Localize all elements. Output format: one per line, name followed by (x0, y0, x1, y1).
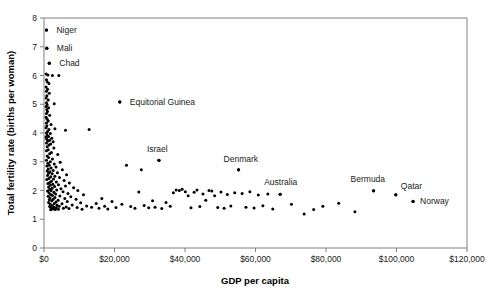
data-point (48, 152, 51, 155)
data-point (53, 102, 56, 105)
data-point (257, 194, 260, 197)
x-tick-label: $40,000 (170, 254, 201, 264)
data-point (85, 205, 88, 208)
data-point (62, 190, 65, 193)
data-point (290, 203, 293, 206)
x-axis-ticks: $0$20,000$40,000$60,000$80,000$100,000$1… (39, 248, 485, 264)
point-label-israel: Israel (147, 144, 168, 154)
data-point (195, 188, 198, 191)
data-point (52, 169, 55, 172)
data-point (133, 207, 136, 210)
annotated-data-point (372, 189, 375, 192)
data-point (114, 206, 117, 209)
data-point (57, 183, 60, 186)
point-label-niger: Niger (56, 25, 76, 35)
data-point (175, 188, 178, 191)
data-point (103, 205, 106, 208)
data-point (66, 192, 69, 195)
data-point (55, 180, 58, 183)
annotated-data-point (411, 200, 414, 203)
y-tick-label: 7 (32, 42, 37, 52)
data-point (216, 206, 219, 209)
data-point (75, 198, 78, 201)
data-point (45, 165, 48, 168)
y-tick-label: 3 (32, 157, 37, 167)
point-label-australia: Australia (264, 177, 297, 187)
data-point (52, 140, 55, 143)
data-point (62, 207, 65, 210)
data-point (312, 208, 315, 211)
x-tick-label: $20,000 (99, 254, 130, 264)
data-point (201, 192, 204, 195)
data-point (81, 208, 84, 211)
data-point (65, 205, 68, 208)
data-point (50, 123, 53, 126)
data-point (57, 74, 60, 77)
data-point (233, 191, 236, 194)
data-point (337, 202, 340, 205)
data-point (125, 164, 128, 167)
plot-frame (44, 18, 467, 248)
data-point (82, 193, 85, 196)
data-point (53, 175, 56, 178)
data-point (90, 206, 93, 209)
data-point (79, 201, 82, 204)
data-points (45, 29, 415, 216)
data-point (49, 208, 52, 211)
data-point (207, 189, 210, 192)
data-point (223, 207, 226, 210)
point-label-bermuda: Bermuda (351, 174, 386, 184)
data-point (198, 205, 201, 208)
data-point (46, 73, 49, 76)
data-point (261, 204, 264, 207)
data-point (271, 207, 274, 210)
data-point (213, 194, 216, 197)
y-axis-title: Total fertility rate (births per woman) (5, 51, 16, 216)
x-tick-label: $80,000 (311, 254, 342, 264)
data-point (106, 207, 109, 210)
data-point (68, 182, 71, 185)
data-point (45, 121, 48, 124)
x-tick-label: $120,000 (449, 254, 485, 264)
data-point (51, 74, 54, 77)
data-point (64, 129, 67, 132)
data-point (321, 205, 324, 208)
data-point (63, 179, 66, 182)
y-tick-label: 6 (32, 71, 37, 81)
data-point (68, 207, 71, 210)
data-point (164, 201, 167, 204)
data-point (51, 157, 54, 160)
annotated-data-point (237, 168, 240, 171)
data-point (181, 188, 184, 191)
data-point (143, 204, 146, 207)
data-point (52, 146, 55, 149)
data-point (45, 149, 48, 152)
data-point (169, 205, 172, 208)
x-tick-label: $0 (39, 254, 49, 264)
point-label-equitorial-guinea: Equitorial Guinea (130, 97, 195, 107)
data-point (59, 161, 62, 164)
data-point (50, 189, 53, 192)
data-point (266, 192, 269, 195)
annotated-data-point (118, 100, 121, 103)
plot-svg: $0$20,000$40,000$60,000$80,000$100,000$1… (0, 0, 502, 300)
data-point (53, 163, 56, 166)
data-point (189, 206, 192, 209)
data-point (57, 208, 60, 211)
data-point (52, 178, 55, 181)
data-point (147, 206, 150, 209)
y-tick-label: 0 (32, 243, 37, 253)
data-point (69, 195, 72, 198)
data-point (219, 190, 222, 193)
data-point (184, 190, 187, 193)
data-point (226, 193, 229, 196)
data-point (72, 186, 75, 189)
data-point (51, 194, 54, 197)
data-point (253, 207, 256, 210)
data-point (111, 200, 114, 203)
data-point (58, 176, 61, 179)
data-point (53, 185, 56, 188)
data-point (178, 189, 181, 192)
data-point (187, 194, 190, 197)
point-label-norway: Norway (420, 196, 450, 206)
